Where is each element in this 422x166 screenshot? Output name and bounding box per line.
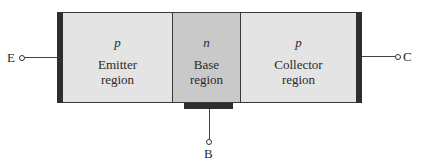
base-region: n Base region [173,12,241,103]
emitter-terminal-label: E [7,50,15,66]
base-region-label: Base region [173,57,240,87]
base-lead [209,109,210,139]
emitter-label-line1: Emitter [63,57,172,72]
base-label-line2: region [173,72,240,87]
collector-terminal-icon [395,54,401,60]
collector-doping-label: p [241,35,356,51]
emitter-region-label: Emitter region [63,57,172,87]
emitter-region: p Emitter region [63,12,173,103]
collector-region-label: Collector region [241,57,356,87]
collector-region: p Collector region [241,12,356,103]
emitter-doping-label: p [63,35,172,51]
emitter-label-line2: region [63,72,172,87]
emitter-lead [25,57,57,58]
collector-terminal-label: C [403,49,412,65]
base-label-line1: Base [173,57,240,72]
emitter-terminal-icon [19,55,25,61]
base-terminal-label: B [204,146,213,162]
collector-label-line2: region [241,72,356,87]
collector-label-line1: Collector [241,57,356,72]
collector-contact [356,12,362,103]
base-doping-label: n [173,35,240,51]
base-terminal-icon [206,139,212,145]
collector-lead [362,56,395,57]
